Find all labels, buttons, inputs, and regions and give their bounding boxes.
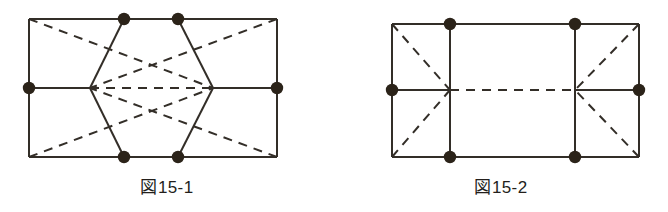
- figure-15-1-dot-top-left-inner: [118, 13, 130, 25]
- figure-15-2-right-panel-diag-down: [575, 24, 639, 90]
- figure-board: 図15-1 図15-2: [0, 0, 668, 212]
- figure-15-2-dot-left-middle: [386, 84, 398, 96]
- figure-15-1-dot-bottom-right-inner: [172, 151, 184, 163]
- figure-15-1: [23, 13, 283, 163]
- figure-caption-left: 図15-1: [0, 173, 334, 198]
- figure-15-2-dot-bottom-left-inner: [444, 151, 456, 163]
- figure-15-2-right-panel-diag-up: [575, 90, 639, 157]
- figure-15-2-left-panel-diag-down: [392, 24, 450, 90]
- figure-15-2-dot-top-right-inner: [569, 18, 581, 30]
- figure-15-2-left-panel-diag-up: [392, 90, 450, 157]
- figure-15-2-dot-top-left-inner: [444, 18, 456, 30]
- figure-15-2: [386, 18, 645, 163]
- figure-15-1-dot-right-middle: [271, 82, 283, 94]
- figure-15-1-dot-left-middle: [23, 82, 35, 94]
- figure-15-2-dot-bottom-right-inner: [569, 151, 581, 163]
- figure-15-2-dot-right-middle: [633, 84, 645, 96]
- figure-15-1-dot-top-right-inner: [172, 13, 184, 25]
- figure-caption-right: 図15-2: [334, 173, 668, 198]
- figure-15-1-dot-bottom-left-inner: [118, 151, 130, 163]
